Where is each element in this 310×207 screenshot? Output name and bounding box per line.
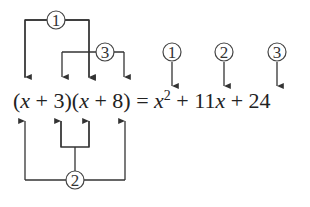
- result-1-label: 1: [168, 43, 177, 62]
- result-24: + 24: [225, 88, 270, 113]
- step-1-label: 1: [52, 11, 61, 30]
- result-2-label: 2: [220, 43, 229, 62]
- term-x-second: x: [78, 88, 89, 113]
- result-marker-3: 3: [268, 43, 286, 86]
- term-plus-8: + 8) =: [89, 88, 154, 113]
- bracket-step-1: 1: [25, 11, 89, 78]
- paren-open: (: [13, 88, 20, 113]
- result-marker-2: 2: [215, 43, 233, 86]
- term-plus-3: + 3)(: [30, 88, 79, 113]
- result-x-squared: x: [153, 88, 164, 113]
- step-2-label: 2: [71, 171, 80, 190]
- bracket-step-3: 3: [62, 43, 124, 77]
- result-3-label: 3: [273, 43, 282, 62]
- term-x-first: x: [19, 88, 30, 113]
- foil-diagram: 1 3 2 (x + 3)(x + 8) = x2 + 11x + 24 1 2…: [0, 0, 310, 207]
- step-3-label: 3: [101, 43, 110, 62]
- exponent: 2: [164, 88, 171, 103]
- bracket-step-2: 2: [25, 121, 125, 190]
- result-x-linear: x: [214, 88, 225, 113]
- result-marker-1: 1: [163, 43, 181, 86]
- result-11: + 11: [171, 88, 216, 113]
- equation: (x + 3)(x + 8) = x2 + 11x + 24: [13, 88, 271, 113]
